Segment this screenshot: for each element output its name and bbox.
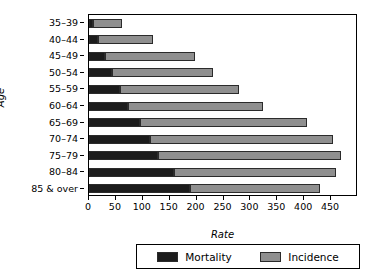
y-axis-labels: 35–3940–4445–4950–5455–5960–6465–6970–74…	[0, 14, 84, 196]
x-axis-tick	[330, 196, 331, 200]
y-axis-tick	[80, 138, 84, 139]
y-axis-tick	[80, 105, 84, 106]
bar-segment-incidence	[128, 102, 263, 111]
bar-segment-incidence	[105, 52, 195, 61]
bar-segment-mortality	[89, 68, 112, 77]
x-axis-tick-label: 150	[160, 201, 178, 212]
bar-segment-incidence	[150, 135, 333, 144]
bar-row	[89, 85, 239, 94]
y-axis-tick-label: 85 & over	[31, 182, 78, 193]
bar-row	[89, 168, 336, 177]
bar-row	[89, 19, 122, 28]
x-axis-tick	[276, 196, 277, 200]
bar-segment-mortality	[89, 35, 98, 44]
y-axis-tick-label: 50–54	[49, 66, 78, 77]
y-axis-tick-label: 70–74	[49, 133, 78, 144]
x-axis-ticks: 050100150200250300350400450	[88, 196, 357, 214]
bar-segment-incidence	[158, 151, 341, 160]
legend-entry: Mortality	[157, 251, 232, 263]
x-axis-tick-label: 100	[133, 201, 151, 212]
legend-label: Incidence	[288, 251, 338, 263]
bar-segment-incidence	[98, 35, 153, 44]
y-axis-tick	[80, 188, 84, 189]
x-axis-tick	[303, 196, 304, 200]
bar-segment-mortality	[89, 52, 105, 61]
x-axis-tick	[249, 196, 250, 200]
x-axis-tick-label: 0	[85, 201, 91, 212]
bar-row	[89, 151, 341, 160]
chart-legend: MortalityIncidence	[136, 244, 360, 269]
x-axis-tick-label: 250	[213, 201, 231, 212]
legend-swatch	[157, 252, 178, 262]
y-axis-tick-label: 40–44	[49, 33, 78, 44]
y-axis-tick-label: 65–69	[49, 116, 78, 127]
bar-row	[89, 52, 195, 61]
x-axis-tick	[88, 196, 89, 200]
y-axis-tick-label: 45–49	[49, 50, 78, 61]
y-axis-tick	[80, 122, 84, 123]
bar-segment-mortality	[89, 85, 120, 94]
x-axis-tick-label: 350	[267, 201, 285, 212]
bar-segment-incidence	[120, 85, 239, 94]
y-axis-tick	[80, 171, 84, 172]
y-axis-tick-label: 35–39	[49, 17, 78, 28]
bar-segment-mortality	[89, 168, 174, 177]
bar-segment-mortality	[89, 102, 128, 111]
bar-segment-mortality	[89, 151, 158, 160]
bar-row	[89, 118, 307, 127]
y-axis-tick	[80, 55, 84, 56]
bar-row	[89, 184, 320, 193]
y-axis-tick-label: 75–79	[49, 149, 78, 160]
bar-segment-incidence	[174, 168, 336, 177]
x-axis-tick	[142, 196, 143, 200]
x-axis-tick-label: 300	[240, 201, 258, 212]
y-axis-tick	[80, 72, 84, 73]
x-axis-tick-label: 200	[187, 201, 205, 212]
bar-segment-mortality	[89, 135, 150, 144]
y-axis-tick-label: 60–64	[49, 100, 78, 111]
bar-row	[89, 35, 153, 44]
legend-entry: Incidence	[260, 251, 338, 263]
x-axis-tick	[169, 196, 170, 200]
legend-swatch	[260, 252, 281, 262]
bar-segment-mortality	[89, 118, 140, 127]
bar-row	[89, 68, 213, 77]
bar-row	[89, 135, 333, 144]
bar-segment-mortality	[89, 184, 190, 193]
y-axis-tick	[80, 155, 84, 156]
bar-segment-incidence	[93, 19, 122, 28]
x-axis-tick	[196, 196, 197, 200]
bars-layer	[89, 15, 356, 195]
x-axis-title: Rate	[88, 229, 357, 240]
x-axis-tick-label: 50	[109, 201, 121, 212]
y-axis-tick	[80, 88, 84, 89]
y-axis-tick	[80, 39, 84, 40]
bar-segment-incidence	[140, 118, 307, 127]
y-axis-tick-label: 80–84	[49, 166, 78, 177]
x-axis-tick-label: 400	[294, 201, 312, 212]
x-axis-tick	[223, 196, 224, 200]
x-axis-tick-label: 450	[321, 201, 339, 212]
x-axis-tick	[115, 196, 116, 200]
bar-segment-incidence	[190, 184, 320, 193]
plot-area	[88, 14, 357, 196]
bar-segment-incidence	[112, 68, 213, 77]
bar-row	[89, 102, 263, 111]
y-axis-tick	[80, 22, 84, 23]
legend-label: Mortality	[185, 251, 232, 263]
bar-chart: Age 35–3940–4445–4950–5455–5960–6465–697…	[0, 0, 369, 276]
y-axis-tick-label: 55–59	[49, 83, 78, 94]
